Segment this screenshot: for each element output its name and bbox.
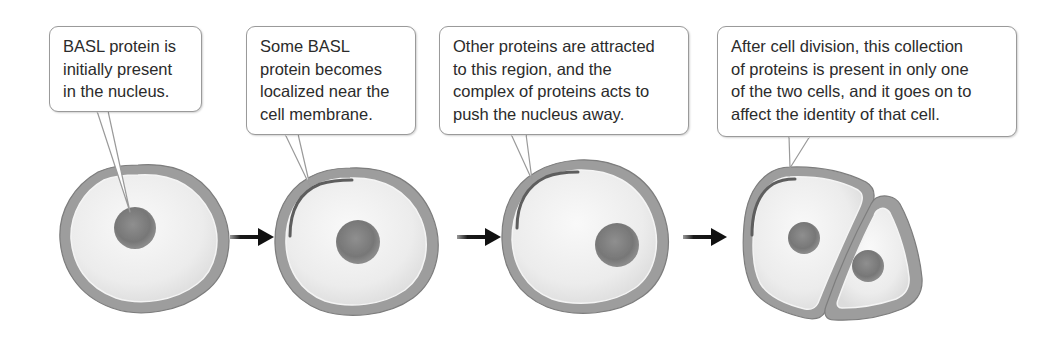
cell-3 — [502, 160, 668, 314]
nucleus — [852, 250, 884, 282]
cell-2 — [275, 168, 438, 316]
right-arrow-icon — [230, 228, 274, 246]
cell-1 — [60, 165, 229, 313]
nucleus — [114, 207, 156, 249]
callout-pointer-3 — [511, 134, 532, 180]
right-arrow-icon — [457, 228, 501, 246]
callout-step-4: After cell division, this collection of … — [717, 26, 1017, 137]
callout-step-1: BASL protein is initially present in the… — [49, 26, 202, 112]
basl-diagram: BASL protein is initially present in the… — [0, 0, 1057, 347]
nucleus — [336, 220, 380, 264]
cell-4-divided — [743, 167, 922, 320]
callout-step-3: Other proteins are attracted to this reg… — [439, 26, 689, 135]
nucleus — [595, 223, 639, 267]
callout-step-2: Some BASL protein becomes localized near… — [246, 26, 416, 135]
callout-pointer-4 — [789, 136, 810, 168]
nucleus — [788, 222, 820, 254]
right-arrow-icon — [683, 228, 727, 246]
callout-pointer-2 — [285, 134, 310, 186]
